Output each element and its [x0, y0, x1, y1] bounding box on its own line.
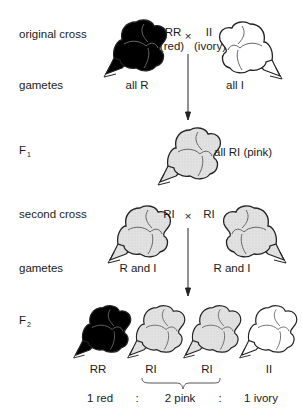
- arrow-second-cross-to-f2: [186, 228, 191, 296]
- bracket-pink: [142, 378, 220, 389]
- arrow-original-to-f1: [186, 54, 191, 120]
- connector-overlay: [0, 0, 302, 410]
